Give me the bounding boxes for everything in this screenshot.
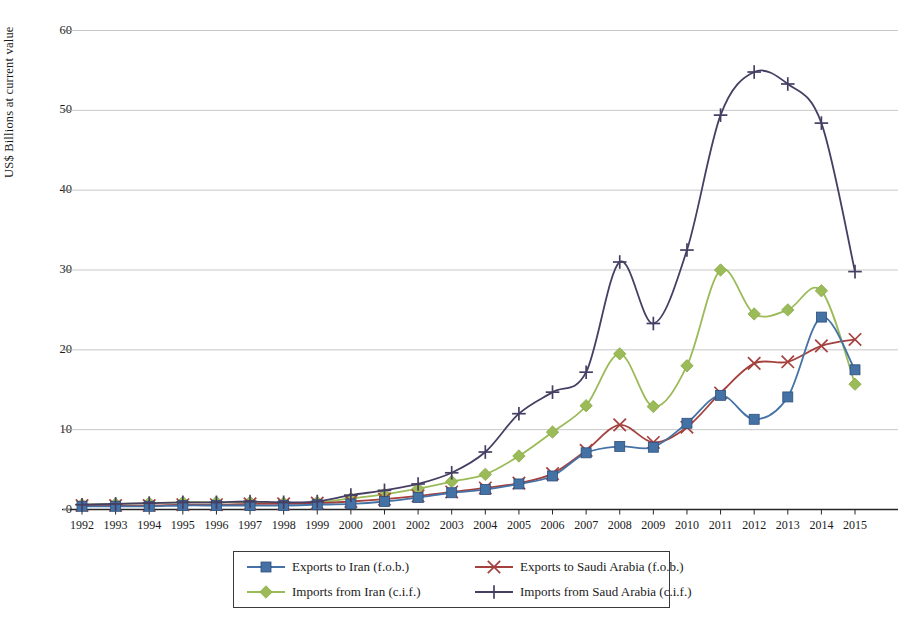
data-point-plus bbox=[487, 585, 501, 599]
legend-key-exports-iran bbox=[246, 559, 286, 575]
plot-area bbox=[0, 0, 903, 632]
data-point-square bbox=[480, 485, 490, 495]
legend-label-imports-iran: Imports from Iran (c.i.f.) bbox=[292, 584, 421, 600]
legend-swatch bbox=[474, 584, 514, 600]
data-point-square bbox=[379, 497, 389, 507]
data-point-square bbox=[261, 562, 271, 572]
data-point-square bbox=[749, 414, 759, 424]
data-point-square bbox=[716, 390, 726, 400]
data-point-diamond bbox=[815, 285, 827, 297]
data-point-plus bbox=[781, 77, 795, 91]
data-point-square bbox=[682, 418, 692, 428]
data-point-square bbox=[816, 312, 826, 322]
series-layer bbox=[75, 65, 862, 511]
data-point-square bbox=[581, 448, 591, 458]
series-line bbox=[82, 70, 855, 504]
data-point-diamond bbox=[260, 586, 272, 598]
data-point-plus bbox=[747, 65, 761, 79]
legend-item-exports-saudi[interactable]: Exports to Saudi Arabia (f.o.b.) bbox=[474, 559, 683, 575]
data-point-square bbox=[850, 365, 860, 375]
series-line bbox=[82, 339, 855, 505]
line-chart: US$ Billions at current value 0102030405… bbox=[0, 0, 903, 632]
data-point-square bbox=[783, 392, 793, 402]
data-point-diamond bbox=[681, 360, 693, 372]
legend-label-exports-saudi: Exports to Saudi Arabia (f.o.b.) bbox=[520, 559, 684, 575]
data-point-plus bbox=[848, 265, 862, 279]
legend-item-exports-iran[interactable]: Exports to Iran (f.o.b.) bbox=[246, 559, 474, 575]
data-point-plus bbox=[680, 243, 694, 257]
series-line bbox=[82, 269, 855, 505]
legend-swatch bbox=[246, 559, 286, 575]
series-0 bbox=[77, 312, 860, 511]
data-point-plus bbox=[445, 466, 459, 480]
series-2 bbox=[76, 264, 861, 511]
data-point-square bbox=[447, 488, 457, 498]
legend-key-imports-iran bbox=[246, 584, 286, 600]
legend: Exports to Iran (f.o.b.) Exports to Saud… bbox=[233, 551, 670, 608]
data-point-square bbox=[514, 479, 524, 489]
data-point-plus bbox=[815, 116, 829, 130]
data-point-cross-x bbox=[748, 357, 760, 369]
legend-swatch bbox=[474, 559, 514, 575]
legend-key-imports-saudi bbox=[474, 584, 514, 600]
data-point-diamond bbox=[513, 450, 525, 462]
series-1 bbox=[76, 333, 861, 511]
legend-item-imports-saudi[interactable]: Imports from Saud Arabia (c.i.f.) bbox=[474, 584, 683, 600]
data-point-square bbox=[548, 471, 558, 481]
legend-item-imports-iran[interactable]: Imports from Iran (c.i.f.) bbox=[246, 584, 474, 600]
data-point-square bbox=[413, 493, 423, 503]
data-point-square bbox=[615, 441, 625, 451]
legend-label-exports-iran: Exports to Iran (f.o.b.) bbox=[292, 559, 409, 575]
data-point-diamond bbox=[479, 468, 491, 480]
legend-label-imports-saudi: Imports from Saud Arabia (c.i.f.) bbox=[520, 584, 691, 600]
data-point-diamond bbox=[849, 378, 861, 390]
data-point-plus bbox=[546, 385, 560, 399]
axis-lines bbox=[62, 31, 898, 515]
data-point-plus bbox=[613, 255, 627, 269]
legend-swatch bbox=[246, 584, 286, 600]
data-point-square bbox=[648, 442, 658, 452]
legend-key-exports-saudi bbox=[474, 559, 514, 575]
series-3 bbox=[75, 65, 862, 511]
data-point-diamond bbox=[782, 304, 794, 316]
data-point-plus bbox=[579, 365, 593, 379]
gridlines bbox=[68, 31, 898, 430]
